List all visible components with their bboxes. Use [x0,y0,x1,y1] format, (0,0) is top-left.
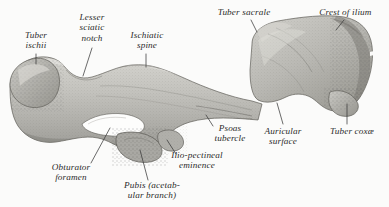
label-ischiatic-spine: Ischiatic spine [108,30,186,51]
label-auricular-surface: Auricular surface [246,126,320,147]
leader-auricular-surface [277,103,283,124]
label-tuber-coxae: Tuber coxæ [315,126,389,136]
label-crest-of-ilium: Crest of ilium [302,7,389,17]
label-line: Tuber sacrale [196,7,292,17]
label-line: eminence [155,160,239,170]
label-line: Tuber coxæ [315,126,389,136]
label-line: surface [246,136,320,146]
label-pubis-acetabular-branch: Pubis (acetab- ular branch) [104,180,200,201]
label-line: ular branch) [104,190,200,200]
label-ilio-pectineal-eminence: Ilio-pectineal eminence [155,150,239,171]
label-line: Ilio-pectineal [155,150,239,160]
label-line: Lesser [56,12,128,22]
label-line: Auricular [246,126,320,136]
label-line: foramen [30,172,112,182]
iliac-wing [248,14,378,120]
leader-lesser-sciatic-notch [83,48,92,76]
label-line: Pubis (acetab- [104,180,200,190]
label-line: Ischiatic [108,30,186,40]
label-tuber-sacrale: Tuber sacrale [196,7,292,17]
label-line: spine [108,40,186,50]
label-line: Obturator [30,162,112,172]
label-line: Crest of ilium [302,7,389,17]
label-obturator-foramen: Obturator foramen [30,162,112,183]
anatomical-figure: Tuber ischii Lesser sciatic notch Ischia… [0,0,389,207]
leader-tuber-sacrale [251,20,257,32]
